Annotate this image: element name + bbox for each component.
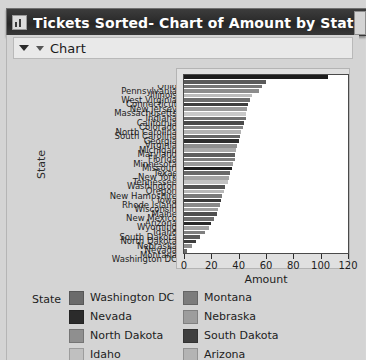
x-axis-title: Amount bbox=[183, 273, 349, 286]
legend-item[interactable]: Nebraska bbox=[183, 307, 278, 326]
bar bbox=[184, 199, 221, 203]
legend-label: Nebraska bbox=[204, 310, 256, 323]
chart-panel-title: Chart bbox=[50, 41, 86, 56]
x-axis-tick-label: 120 bbox=[338, 260, 357, 271]
window-scroll-button[interactable] bbox=[354, 11, 366, 35]
bar bbox=[184, 144, 237, 148]
bar bbox=[184, 153, 235, 157]
bar bbox=[184, 249, 187, 253]
bar bbox=[184, 194, 222, 198]
legend-swatch bbox=[183, 291, 198, 305]
x-axis-tick-label: 100 bbox=[311, 260, 330, 271]
legend-item[interactable]: South Dakota bbox=[183, 326, 278, 345]
legend-swatch bbox=[69, 329, 84, 343]
bar bbox=[184, 162, 233, 166]
x-axis-tick bbox=[348, 254, 349, 259]
legend-label: North Dakota bbox=[90, 329, 163, 342]
bar bbox=[184, 180, 228, 184]
triangle-down-icon[interactable] bbox=[19, 45, 29, 51]
legend-column-2: MontanaNebraskaSouth DakotaArizona bbox=[183, 288, 278, 360]
bar bbox=[184, 185, 225, 189]
client-area: Chart State OhioPennsylvaniaIllinoisWest… bbox=[6, 35, 359, 360]
chart-document-icon bbox=[12, 15, 27, 30]
plot-area bbox=[183, 74, 349, 254]
x-axis-tick-label: 20 bbox=[205, 260, 218, 271]
x-axis-tick-label: 60 bbox=[260, 260, 273, 271]
legend-label: Montana bbox=[204, 291, 252, 304]
legend-label: Nevada bbox=[90, 310, 132, 323]
legend-item[interactable]: North Dakota bbox=[69, 326, 174, 345]
x-axis-tick-label: 80 bbox=[287, 260, 300, 271]
bar bbox=[184, 231, 205, 235]
x-axis-tick bbox=[239, 254, 240, 259]
bar bbox=[184, 89, 259, 93]
legend-swatch bbox=[69, 310, 84, 324]
bar bbox=[184, 176, 229, 180]
x-axis-tick-label: 40 bbox=[232, 260, 245, 271]
bar bbox=[184, 226, 209, 230]
legend-item[interactable]: Montana bbox=[183, 288, 278, 307]
legend-title: State bbox=[32, 293, 61, 306]
y-axis-tick-label: Washington DC bbox=[112, 255, 177, 264]
legend-label: South Dakota bbox=[204, 329, 278, 342]
bar bbox=[184, 235, 200, 239]
bar bbox=[184, 85, 262, 89]
bar bbox=[184, 222, 211, 226]
x-axis-tick bbox=[211, 254, 212, 259]
bar bbox=[184, 217, 214, 221]
bar bbox=[184, 80, 266, 84]
legend-label: Idaho bbox=[90, 348, 121, 360]
bar bbox=[184, 98, 250, 102]
legend-item[interactable]: Washington DC bbox=[69, 288, 174, 307]
bar bbox=[184, 126, 243, 130]
bar bbox=[184, 148, 236, 152]
bar bbox=[184, 167, 232, 171]
bar bbox=[184, 158, 235, 162]
bar bbox=[184, 240, 196, 244]
legend-swatch bbox=[69, 348, 84, 360]
chart-graphic: State OhioPennsylvaniaIllinoisWest Virgi… bbox=[13, 59, 351, 287]
chart-legend: State Washington DCNevadaNorth DakotaIda… bbox=[13, 288, 353, 360]
bar-series bbox=[184, 75, 348, 253]
bar bbox=[184, 94, 252, 98]
legend-item[interactable]: Arizona bbox=[183, 345, 278, 360]
bar bbox=[184, 171, 230, 175]
y-axis-title: State bbox=[35, 150, 48, 179]
x-axis-tick-labels: 020406080100120 bbox=[176, 260, 356, 274]
legend-item[interactable]: Idaho bbox=[69, 345, 174, 360]
bar bbox=[184, 112, 246, 116]
bar bbox=[184, 135, 240, 139]
triangle-down-small-icon[interactable] bbox=[36, 46, 44, 51]
bar bbox=[184, 208, 218, 212]
bar bbox=[184, 107, 247, 111]
legend-swatch bbox=[183, 329, 198, 343]
bar bbox=[184, 139, 239, 143]
bar bbox=[184, 244, 192, 248]
legend-item[interactable]: Nevada bbox=[69, 307, 174, 326]
legend-swatch bbox=[183, 348, 198, 360]
window-title: Tickets Sorted- Chart of Amount by State bbox=[33, 15, 363, 31]
x-axis-tick bbox=[266, 254, 267, 259]
bar bbox=[184, 203, 220, 207]
legend-label: Washington DC bbox=[90, 291, 174, 304]
legend-swatch bbox=[69, 291, 84, 305]
bar bbox=[184, 190, 224, 194]
y-axis-tick-labels: OhioPennsylvaniaIllinoisWest VirginiaCon… bbox=[51, 85, 177, 267]
bar bbox=[184, 103, 248, 107]
bar bbox=[184, 117, 246, 121]
chart-panel-header[interactable]: Chart bbox=[13, 37, 353, 59]
bar bbox=[184, 130, 241, 134]
legend-label: Arizona bbox=[204, 348, 245, 360]
x-axis-tick-label: 0 bbox=[181, 260, 187, 271]
legend-column-1: Washington DCNevadaNorth DakotaIdaho bbox=[69, 288, 174, 360]
legend-swatch bbox=[183, 310, 198, 324]
bar bbox=[184, 212, 217, 216]
bar bbox=[184, 75, 328, 79]
x-axis-tick bbox=[293, 254, 294, 259]
bar bbox=[184, 121, 244, 125]
window-titlebar[interactable]: Tickets Sorted- Chart of Amount by State bbox=[6, 8, 366, 36]
x-axis-tick bbox=[184, 254, 185, 259]
x-axis-tick bbox=[321, 254, 322, 259]
